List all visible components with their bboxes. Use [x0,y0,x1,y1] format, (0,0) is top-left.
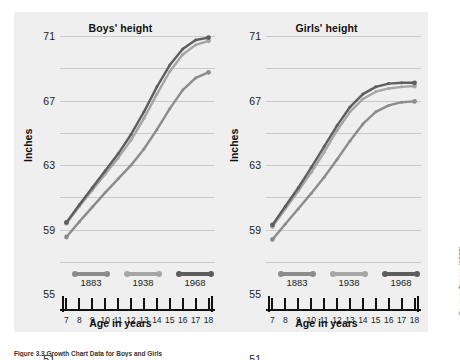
data-point [270,222,275,227]
y-tick-label: 55 [249,288,261,300]
y-tick-label: 67 [43,95,55,107]
data-point [348,110,351,113]
x-tick [323,298,325,311]
data-point [348,106,351,109]
legend-swatch-1938 [125,272,161,276]
legend-item-1883[interactable]: 1883 [70,270,112,288]
data-point [323,151,326,154]
legend-item-1938[interactable]: 1938 [328,270,370,288]
figure-caption: Figure 3.3 Growth Chart Data for Boys an… [14,350,434,357]
x-tick [91,298,93,311]
y-tick-label: 67 [249,95,261,107]
series-1938 [270,84,417,229]
data-point [206,35,211,40]
x-tick [310,298,312,311]
series-line [272,86,414,226]
legend-swatch-1883 [279,272,315,276]
data-point [104,191,107,194]
data-point [387,87,390,90]
y-tick-label: 63 [249,159,261,171]
legend-item-1968[interactable]: 1968 [174,270,216,288]
data-point [400,101,403,104]
x-tick [143,298,145,311]
legend-item-1938[interactable]: 1938 [122,270,164,288]
legend-label-1968: 1968 [174,277,216,288]
x-axis-girls: 789101112131415161718 [266,298,421,314]
data-point [181,47,184,50]
data-point [336,124,339,127]
data-point [168,107,171,110]
legend-item-1968[interactable]: 1968 [380,270,422,288]
legend-swatch-1938 [331,272,367,276]
x-tick [362,298,364,311]
growth-chart-figure: Boys' height Inches 4347515559636771 188… [0,0,460,360]
x-tick [78,298,80,311]
data-point [155,85,158,88]
legend-swatch-1968 [383,272,419,276]
x-axis-endcap [62,296,64,312]
data-point [297,207,300,210]
legend-label-1938: 1938 [328,277,370,288]
data-point [400,85,403,88]
data-point [310,192,313,195]
data-point [323,145,326,148]
data-point [400,81,403,84]
legend-swatch-1883 [73,272,109,276]
data-point [387,82,390,85]
x-axis-line [60,309,215,311]
panel-girls: Girls' height Inches 4347515559636771 18… [226,12,427,332]
legend-item-1883[interactable]: 1883 [276,270,318,288]
x-tick [195,298,197,311]
x-tick [271,298,273,311]
axis-title-y-boys: Inches [22,129,34,162]
x-tick [401,298,403,311]
x-tick [284,298,286,311]
x-axis-endcap [417,296,419,312]
y-tick-label: 55 [43,288,55,300]
x-tick [375,298,377,311]
data-point [130,133,133,136]
plot-background: Boys' height Inches 4347515559636771 188… [14,12,428,332]
data-point [64,220,69,225]
data-point [387,104,390,107]
axis-title-y-girls: Inches [228,129,240,162]
y-tick-label: 59 [249,224,261,236]
series-line [66,72,208,237]
data-point [130,164,133,167]
x-tick [349,298,351,311]
x-tick [182,298,184,311]
legend-label-1938: 1938 [122,277,164,288]
legend-girls: 188319381968 [266,270,421,292]
data-point [168,70,171,73]
data-point [412,99,417,104]
data-point [374,85,377,88]
panel-boys: Boys' height Inches 4347515559636771 188… [20,12,221,332]
legend-boys: 188319381968 [60,270,215,292]
y-tick-label: 71 [249,30,261,42]
data-point [117,152,120,155]
data-point [374,90,377,93]
x-axis-line [266,309,421,311]
data-point [155,93,158,96]
series-layer-girls [266,36,421,262]
data-point [91,206,94,209]
series-1883 [64,70,211,239]
gridline: 43 [266,262,421,263]
data-point [206,70,211,75]
x-tick [130,298,132,311]
data-point [361,122,364,125]
x-axis-boys: 789101112131415161718 [60,298,215,314]
legend-label-1883: 1883 [70,277,112,288]
gridline: 43 [60,262,215,263]
x-axis-endcap [211,296,213,312]
data-point [64,235,69,240]
y-tick-label: 59 [43,224,55,236]
x-tick [297,298,299,311]
data-point [270,237,275,242]
y-tick-label: 63 [43,159,55,171]
data-point [361,93,364,96]
x-tick [169,298,171,311]
x-tick [388,298,390,311]
data-point [194,43,197,46]
data-point [168,64,171,67]
